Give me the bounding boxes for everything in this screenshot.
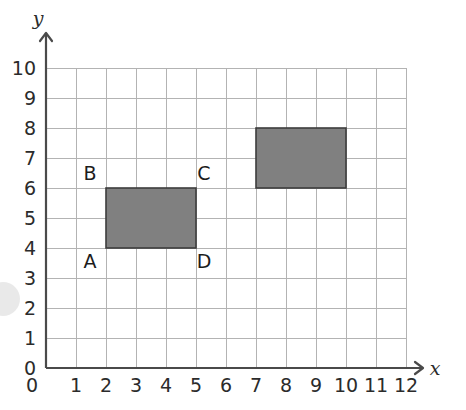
vertex-label-A: A bbox=[84, 250, 97, 272]
rectangle-ABCD bbox=[106, 188, 196, 248]
y-tick-label: 6 bbox=[24, 177, 36, 199]
plot-canvas: 0123456789101112 012345678910 x y ABCD bbox=[0, 0, 466, 410]
y-tick-label: 3 bbox=[24, 267, 36, 289]
x-tick-label: 9 bbox=[310, 374, 322, 396]
y-tick-label: 0 bbox=[24, 357, 36, 379]
y-tick-label: 2 bbox=[24, 297, 36, 319]
rectangle-unlabeled bbox=[256, 128, 346, 188]
y-tick-label: 8 bbox=[24, 117, 36, 139]
x-tick-label: 12 bbox=[394, 374, 418, 396]
x-tick-labels: 0123456789101112 bbox=[26, 374, 418, 396]
y-tick-labels: 012345678910 bbox=[12, 57, 36, 379]
vertex-label-D: D bbox=[197, 250, 212, 272]
x-tick-label: 2 bbox=[100, 374, 112, 396]
y-tick-label: 10 bbox=[12, 57, 36, 79]
x-tick-label: 3 bbox=[130, 374, 142, 396]
y-tick-label: 5 bbox=[24, 207, 36, 229]
x-tick-label: 10 bbox=[334, 374, 358, 396]
x-tick-label: 11 bbox=[364, 374, 388, 396]
coordinate-grid-figure: 0123456789101112 012345678910 x y ABCD bbox=[0, 0, 466, 410]
x-tick-label: 1 bbox=[70, 374, 82, 396]
vertex-label-C: C bbox=[197, 162, 210, 184]
y-axis-label: y bbox=[32, 7, 44, 29]
x-tick-label: 5 bbox=[190, 374, 202, 396]
x-tick-label: 8 bbox=[280, 374, 292, 396]
x-tick-label: 7 bbox=[250, 374, 262, 396]
y-tick-label: 9 bbox=[24, 87, 36, 109]
y-tick-label: 4 bbox=[24, 237, 36, 259]
x-tick-label: 4 bbox=[160, 374, 172, 396]
x-axis-label: x bbox=[430, 357, 441, 379]
vertex-label-B: B bbox=[83, 162, 96, 184]
y-tick-label: 7 bbox=[24, 147, 36, 169]
y-tick-label: 1 bbox=[24, 327, 36, 349]
x-tick-label: 6 bbox=[220, 374, 232, 396]
